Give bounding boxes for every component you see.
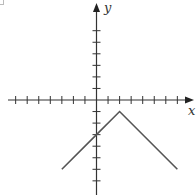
x-axis-label: x [188, 103, 196, 118]
function-graph-line [62, 112, 178, 170]
y-axis-arrow-icon [93, 3, 100, 12]
y-axis-label: y [103, 0, 112, 15]
coordinate-plane: x y [0, 0, 196, 195]
